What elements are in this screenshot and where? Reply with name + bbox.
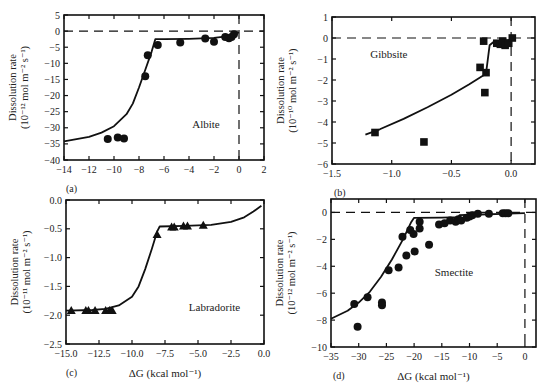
data-point-triangle xyxy=(153,230,162,238)
y-tick-label: −5 xyxy=(49,42,60,53)
y-tick-label: −5 xyxy=(317,138,328,149)
x-tick-label: −10 xyxy=(106,164,122,175)
y-tick-label: −10 xyxy=(44,58,60,69)
panel-a: −14−12−10−8−6−4−20250−5−10−15−20−25−30−3… xyxy=(7,10,267,196)
data-point-circle xyxy=(354,323,362,331)
mineral-name: Albite xyxy=(192,118,220,130)
x-tick-label: −15 xyxy=(434,351,450,362)
x-tick-label: −30 xyxy=(351,351,367,362)
x-tick-label: −1.0 xyxy=(383,168,401,179)
y-tick-label: −6 xyxy=(316,288,327,299)
y-tick-label: −4 xyxy=(316,261,327,272)
x-tick-label: −5 xyxy=(492,351,503,362)
x-tick-label: 0.0 xyxy=(505,168,518,179)
data-point-circle xyxy=(378,301,386,309)
data-point-circle xyxy=(230,30,238,38)
y-tick-label: 1 xyxy=(323,12,328,23)
data-point-circle xyxy=(350,300,358,308)
x-tick-label: 0 xyxy=(237,164,242,175)
data-point-circle xyxy=(104,135,112,143)
data-point-circle xyxy=(144,51,152,59)
y-tick-label: 0.0 xyxy=(50,195,63,206)
plot-frame xyxy=(331,199,536,347)
data-point-circle xyxy=(154,41,162,49)
data-point-circle xyxy=(176,38,184,46)
y-axis-title: Dissolution rate xyxy=(274,239,285,306)
data-point-circle xyxy=(410,230,418,238)
data-point-circle xyxy=(425,241,433,249)
y-axis-units: (10⁻¹² mol m⁻² s⁻¹) xyxy=(19,45,31,129)
data-point-square xyxy=(480,37,488,45)
rate-law-fit-curve xyxy=(331,213,525,319)
y-tick-label: −4 xyxy=(317,117,328,128)
data-point-circle xyxy=(141,72,149,80)
y-tick-label: −30 xyxy=(44,122,60,133)
panel-b: −1.5−1.0−0.50.010−1−2−3−4−5−6Dissolution… xyxy=(275,12,535,200)
x-tick-label: 0 xyxy=(522,351,527,362)
panel-label: (a) xyxy=(66,183,77,195)
panel-d: −35−30−25−20−15−10−500−2−4−6−8−10Dissolu… xyxy=(274,199,536,383)
x-axis-title: ΔG (kcal mol⁻¹) xyxy=(397,370,470,383)
mineral-name: Smectite xyxy=(435,266,474,278)
x-tick-label: 0.0 xyxy=(258,348,271,359)
panel-label: (b) xyxy=(334,187,346,199)
data-point-circle xyxy=(411,247,419,255)
y-tick-label: −6 xyxy=(317,159,328,170)
x-tick-label: −12.5 xyxy=(87,348,110,359)
x-tick-label: −20 xyxy=(406,351,422,362)
y-tick-label: 0 xyxy=(322,207,327,218)
x-tick-label: −0.5 xyxy=(442,168,460,179)
figure: −14−12−10−8−6−4−20250−5−10−15−20−25−30−3… xyxy=(0,0,545,392)
data-point-circle xyxy=(385,266,393,274)
x-tick-label: −2 xyxy=(209,164,220,175)
y-tick-label: −2.0 xyxy=(44,310,62,321)
y-tick-label: −2.5 xyxy=(44,339,62,350)
panel-c: −15.0−12.5−10.0−7.5−5.0−2.50.00.0−0.5−1.… xyxy=(9,195,270,381)
y-tick-label: −35 xyxy=(44,138,60,149)
x-tick-label: −10 xyxy=(462,351,478,362)
x-axis-title: ΔG (kcal mol⁻¹) xyxy=(129,367,202,380)
y-tick-label: 5 xyxy=(55,10,60,21)
x-tick-label: −5.0 xyxy=(189,348,207,359)
y-tick-label: −2 xyxy=(316,234,327,245)
y-tick-label: −0.5 xyxy=(44,223,62,234)
data-point-circle xyxy=(364,293,372,301)
data-point-circle xyxy=(474,210,482,218)
y-axis-title: Dissolution rate xyxy=(275,57,286,124)
x-tick-label: −14 xyxy=(56,164,72,175)
data-point-square xyxy=(481,89,489,97)
y-tick-label: −40 xyxy=(44,155,60,166)
data-point-circle xyxy=(210,38,218,46)
x-tick-label: −8 xyxy=(134,164,145,175)
data-point-circle xyxy=(402,252,410,260)
y-tick-label: −8 xyxy=(316,315,327,326)
x-tick-label: −25 xyxy=(379,351,395,362)
y-tick-label: −20 xyxy=(44,90,60,101)
data-point-square xyxy=(371,129,379,137)
data-point-circle xyxy=(120,134,128,142)
y-axis-title: Dissolution rate xyxy=(7,54,18,121)
y-tick-label: −1 xyxy=(317,54,328,65)
y-axis-units: (10⁻¹¹ mol m⁻² s⁻¹) xyxy=(21,230,33,314)
y-tick-label: −1.5 xyxy=(44,281,62,292)
x-tick-label: 2 xyxy=(262,164,267,175)
y-tick-label: −25 xyxy=(44,106,60,117)
x-tick-label: −7.5 xyxy=(156,348,174,359)
x-tick-label: −4 xyxy=(184,164,195,175)
data-point-circle xyxy=(504,209,512,217)
y-tick-label: 0 xyxy=(55,26,60,37)
data-point-square xyxy=(420,138,428,146)
x-tick-label: −2.5 xyxy=(222,348,240,359)
x-tick-label: −6 xyxy=(159,164,170,175)
rate-law-fit-curve xyxy=(66,206,261,311)
x-tick-label: −1.5 xyxy=(323,168,341,179)
data-point-square xyxy=(509,34,517,42)
mineral-name: Gibbsite xyxy=(370,48,407,60)
x-tick-label: −35 xyxy=(323,351,339,362)
y-axis-units: (10⁻¹⁰ mol m⁻² s⁻¹) xyxy=(287,48,299,133)
data-point-square xyxy=(482,69,490,77)
y-axis-units: (10⁻¹² mol m⁻² s⁻¹) xyxy=(286,231,298,315)
data-point-circle xyxy=(416,225,424,233)
panel-label: (c) xyxy=(66,367,77,379)
data-point-circle xyxy=(395,264,403,272)
